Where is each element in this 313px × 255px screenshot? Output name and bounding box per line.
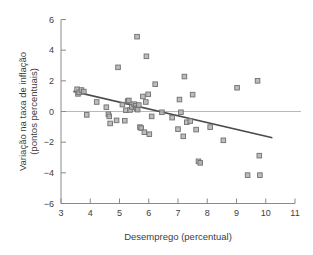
data-point-marker	[82, 89, 87, 94]
data-point-marker	[147, 132, 152, 137]
x-tick-label-6: 6	[146, 208, 151, 218]
data-point-marker	[104, 105, 109, 110]
data-point-marker	[137, 103, 142, 108]
y-tick-label--2: −2	[44, 137, 54, 147]
x-axis-title: Desemprego (percentual)	[124, 231, 232, 242]
data-point-marker	[84, 113, 89, 118]
data-point-marker	[141, 94, 146, 99]
data-point-marker	[149, 114, 154, 119]
data-point-marker	[257, 153, 262, 158]
y-tick-label-6: 6	[49, 15, 54, 25]
regression-fit-line	[74, 92, 271, 138]
data-point-marker	[108, 121, 113, 126]
data-point-marker	[198, 161, 203, 166]
data-point-marker	[221, 138, 226, 143]
y-axis-title-line-1: Variação na taxa de inflação	[17, 52, 28, 171]
data-point-marker	[194, 127, 199, 132]
scatter-chart-figure: −6−4−2024634567891011Desemprego (percent…	[0, 0, 313, 255]
data-point-marker	[114, 118, 119, 123]
data-point-marker	[144, 54, 149, 59]
data-point-marker	[107, 114, 112, 119]
data-point-marker	[255, 79, 260, 84]
x-tick-label-7: 7	[175, 208, 180, 218]
data-point-marker	[190, 92, 195, 97]
phillips-curve-scatter-plot: −6−4−2024634567891011Desemprego (percent…	[0, 0, 313, 255]
data-point-marker	[127, 98, 132, 103]
data-point-marker	[135, 34, 140, 39]
x-tick-label-9: 9	[234, 208, 239, 218]
data-point-marker	[122, 118, 127, 123]
data-point-marker	[94, 100, 99, 105]
y-axis-title-line-2: (pontos percentuais)	[28, 68, 39, 155]
data-point-marker	[116, 65, 121, 70]
x-tick-label-3: 3	[58, 208, 63, 218]
data-point-marker	[177, 97, 182, 102]
x-tick-label-5: 5	[117, 208, 122, 218]
y-tick-label--6: −6	[44, 199, 54, 209]
data-point-marker	[160, 110, 165, 115]
data-point-marker	[258, 173, 263, 178]
x-tick-label-8: 8	[205, 208, 210, 218]
data-point-marker	[181, 134, 186, 139]
y-axis-title: Variação na taxa de inflação(pontos perc…	[17, 52, 39, 171]
data-point-marker	[153, 82, 158, 87]
data-point-marker	[146, 92, 151, 97]
x-tick-label-11: 11	[290, 208, 299, 218]
data-point-marker	[170, 115, 175, 120]
data-point-marker	[188, 119, 193, 124]
data-point-marker	[182, 74, 187, 79]
data-point-marker	[208, 125, 213, 130]
data-point-marker	[235, 85, 240, 90]
y-tick-label-2: 2	[49, 76, 54, 86]
data-point-marker	[142, 130, 147, 135]
data-point-marker	[245, 173, 250, 178]
x-tick-label-4: 4	[88, 208, 93, 218]
y-tick-label-0: 0	[49, 107, 54, 117]
x-tick-label-10: 10	[261, 208, 271, 218]
data-point-marker	[176, 127, 181, 132]
y-tick-label--4: −4	[44, 168, 54, 178]
data-point-marker	[144, 100, 149, 105]
y-tick-label-4: 4	[49, 45, 54, 55]
data-point-marker	[179, 110, 184, 115]
data-point-marker	[135, 107, 140, 112]
data-point-marker	[120, 102, 125, 107]
